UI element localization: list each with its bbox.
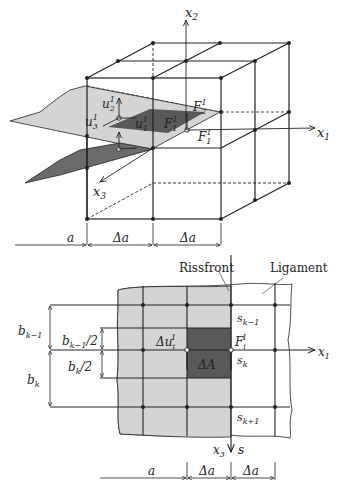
- dim-a: a: [67, 231, 74, 245]
- label-F2: F21: [192, 98, 207, 116]
- top-figure: x2 x1 x3 u21 u31 u11 F21 F11 F11 a Δa Δa: [10, 5, 330, 245]
- label-x1-bottom: x1: [318, 345, 330, 361]
- label-ligament: Ligament: [270, 261, 328, 275]
- label-F1: F11: [197, 128, 212, 146]
- dim-delta-a-2: Δa: [179, 231, 196, 245]
- label-delta-A: ΔA: [197, 358, 216, 372]
- label-u1: u11: [135, 115, 148, 133]
- crack-plane-lower: [25, 143, 153, 183]
- label-u3: u31: [85, 113, 98, 131]
- label-delta-u: Δui1: [155, 333, 176, 351]
- label-u2: u21: [102, 95, 115, 113]
- crack-mesh-diagram: x2 x1 x3 u21 u31 u11 F21 F11 F11 a Δa Δa: [0, 0, 342, 496]
- dim-a-bottom: a: [148, 464, 155, 478]
- label-bk-half: bk/2: [68, 360, 92, 376]
- label-x2: x2: [185, 5, 198, 22]
- label-x1: x1: [317, 125, 330, 142]
- label-bk-1-half: bk−1/2: [62, 334, 98, 350]
- label-s: s: [238, 443, 244, 457]
- label-x3: x3: [93, 184, 106, 201]
- label-bk-1: bk−1: [18, 324, 42, 340]
- label-F1-dark: F11: [163, 115, 178, 133]
- label-bk: bk: [27, 373, 40, 389]
- label-rissfront: Rissfront: [179, 261, 234, 275]
- dim-delta-a-bottom-2: Δa: [242, 464, 259, 478]
- bottom-figure: Rissfront Ligament bk−1 bk−1/2 bk/2 bk Δ…: [18, 255, 330, 480]
- dim-delta-a-bottom-1: Δa: [198, 464, 215, 478]
- label-x3-bottom: x3: [213, 443, 225, 459]
- dim-delta-a-1: Δa: [112, 231, 129, 245]
- left-dimensions: [50, 306, 102, 406]
- label-Fi: Fi1: [234, 333, 247, 351]
